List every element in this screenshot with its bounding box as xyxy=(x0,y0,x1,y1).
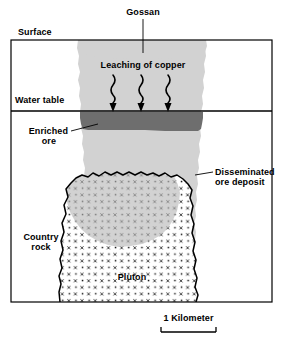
leaching-of-copper-label: Leaching of copper xyxy=(93,60,193,70)
surface-label: Surface xyxy=(18,27,52,37)
gossan-label: Gossan xyxy=(110,7,176,17)
water-table-label: Water table xyxy=(15,95,64,105)
pluton-label: Pluton xyxy=(108,272,156,282)
country-rock-label-line1: Country xyxy=(14,232,68,242)
enriched-ore-label-line1: Enriched xyxy=(0,126,68,136)
gossan-cap xyxy=(78,40,207,59)
disseminated-ore-label-line2: ore deposit xyxy=(215,177,265,187)
disseminated-ore-label-line1: Disseminated xyxy=(215,167,275,177)
enriched-ore-band xyxy=(80,112,203,131)
enriched-ore-label-line2: ore xyxy=(0,136,56,146)
country-rock-label-line2: rock xyxy=(14,242,68,252)
scale-bar-label: 1 Kilometer xyxy=(150,313,227,323)
pluton-group xyxy=(50,160,210,310)
